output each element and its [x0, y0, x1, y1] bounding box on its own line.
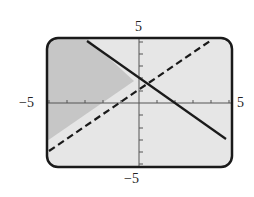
- x-min-label: −5: [19, 96, 34, 110]
- x-max-label: 5: [237, 96, 244, 110]
- graph-svg: [0, 0, 254, 197]
- y-max-label: 5: [135, 20, 142, 34]
- y-min-label: −5: [124, 172, 139, 186]
